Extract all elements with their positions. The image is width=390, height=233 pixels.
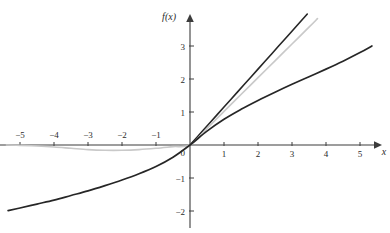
x-tick-label: −1 xyxy=(151,130,161,140)
curve-steep-dark-line xyxy=(190,14,307,145)
y-axis-arrow-icon xyxy=(186,14,194,22)
x-tick-label: −4 xyxy=(49,130,59,140)
y-tick-label: −1 xyxy=(175,174,185,184)
tick-labels: −5−4−3−2−112345−2−11230 xyxy=(15,42,363,217)
x-tick-label: 4 xyxy=(324,149,329,159)
y-tick-label: 1 xyxy=(181,108,186,118)
x-tick-label: 3 xyxy=(290,149,295,159)
x-axis-title: x xyxy=(381,146,387,157)
y-tick-label: 3 xyxy=(181,42,186,52)
y-axis-title: f(x) xyxy=(162,11,177,23)
plot-canvas: −5−4−3−2−112345−2−11230 x f(x) xyxy=(0,0,390,233)
x-tick-label: 1 xyxy=(222,149,227,159)
y-tick-label: 2 xyxy=(181,75,186,85)
function-graph-figure: −5−4−3−2−112345−2−11230 x f(x) xyxy=(0,0,390,233)
x-tick-label: 5 xyxy=(358,149,363,159)
x-tick-label: −3 xyxy=(83,130,93,140)
x-tick-label: −2 xyxy=(117,130,127,140)
x-tick-label: 2 xyxy=(256,149,261,159)
x-tick-label: −5 xyxy=(15,130,25,140)
y-tick-label: −2 xyxy=(175,207,185,217)
